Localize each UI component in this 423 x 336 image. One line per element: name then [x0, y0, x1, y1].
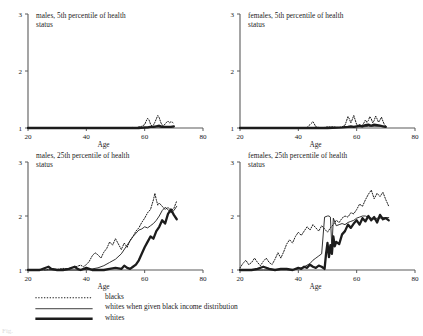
- x-axis-label: Age: [97, 140, 109, 149]
- series-line: [240, 215, 389, 270]
- x-axis-label: Age: [97, 282, 109, 291]
- x-tick-label: 20: [24, 275, 32, 283]
- legend-item-blacks: blacks: [33, 292, 293, 303]
- x-tick-label: 40: [83, 133, 91, 141]
- x-tick-label: 20: [24, 133, 32, 141]
- series-line: [28, 126, 174, 128]
- x-tick-label: 20: [236, 133, 244, 141]
- y-tick-label: 2: [18, 213, 22, 221]
- panel-females-25th: females, 25th percentile of health statu…: [212, 150, 423, 292]
- y-tick-label: 3: [18, 159, 22, 167]
- x-tick-label: 80: [199, 275, 207, 283]
- y-tick-label: 3: [230, 11, 234, 19]
- x-tick-label: 60: [141, 275, 149, 283]
- legend-swatch-thick-solid: [33, 313, 95, 324]
- x-tick-label: 20: [236, 275, 244, 283]
- x-tick-label: 60: [353, 275, 361, 283]
- legend-swatch-thin-solid: [33, 303, 95, 314]
- legend-label-whites-black-income: whites when given black income distribut…: [105, 302, 238, 313]
- y-tick-label: 3: [18, 11, 22, 19]
- plot-males-5th: 12320406080Age: [0, 0, 211, 150]
- panel-males-5th: males, 5th percentile of health status 1…: [0, 0, 211, 150]
- legend-item-whites: whites: [33, 313, 293, 324]
- y-tick-label: 1: [18, 125, 22, 133]
- legend: blacks whites when given black income di…: [33, 292, 293, 324]
- y-tick-label: 3: [230, 159, 234, 167]
- x-axis-label: Age: [309, 282, 321, 291]
- panel-males-25th: males, 25th percentile of health status …: [0, 150, 211, 292]
- legend-item-whites-black-income: whites when given black income distribut…: [33, 303, 293, 314]
- series-line: [28, 210, 177, 270]
- x-tick-label: 40: [83, 275, 91, 283]
- plot-females-25th: 12320406080Age: [212, 150, 423, 292]
- x-axis-label: Age: [309, 140, 321, 149]
- x-tick-label: 80: [199, 133, 207, 141]
- figure-caption-partial: Fig.: [2, 327, 13, 335]
- legend-label-blacks: blacks: [105, 292, 124, 303]
- y-tick-label: 1: [18, 267, 22, 275]
- y-tick-label: 2: [18, 68, 22, 76]
- x-tick-label: 80: [411, 133, 419, 141]
- y-tick-label: 2: [230, 68, 234, 76]
- y-tick-label: 1: [230, 267, 234, 275]
- x-tick-label: 60: [141, 133, 149, 141]
- plot-females-5th: 12320406080Age: [212, 0, 423, 150]
- y-tick-label: 2: [230, 213, 234, 221]
- x-tick-label: 40: [295, 133, 303, 141]
- legend-swatch-dotted: [33, 292, 95, 303]
- y-tick-label: 1: [230, 125, 234, 133]
- x-tick-label: 80: [411, 275, 419, 283]
- x-tick-label: 40: [295, 275, 303, 283]
- figure-root: males, 5th percentile of health status 1…: [0, 0, 423, 336]
- panel-females-5th: females, 5th percentile of health status…: [212, 0, 423, 150]
- legend-label-whites: whites: [105, 313, 124, 324]
- series-line: [240, 216, 389, 270]
- x-tick-label: 60: [353, 133, 361, 141]
- series-line: [28, 193, 177, 270]
- plot-males-25th: 12320406080Age: [0, 150, 211, 292]
- series-line: [240, 190, 389, 268]
